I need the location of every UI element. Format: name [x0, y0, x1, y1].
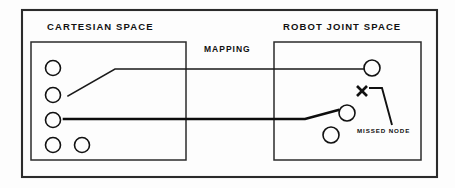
- figure-root: CARTESIAN SPACE ROBOT JOINT SPACE MAPPIN…: [0, 0, 455, 188]
- missed-node-leader-line: [369, 88, 392, 125]
- cartesian-node-3: [46, 113, 61, 128]
- joint-node-2: [339, 105, 355, 121]
- mapping-label: MAPPING: [204, 44, 251, 54]
- cartesian-node-1: [46, 61, 61, 76]
- diagram-canvas: CARTESIAN SPACE ROBOT JOINT SPACE MAPPIN…: [0, 0, 455, 188]
- mapping-line-upper: [68, 69, 364, 96]
- cartesian-space-box: [31, 42, 186, 160]
- missed-node-x-icon: [357, 86, 367, 96]
- joint-node-1: [364, 60, 380, 76]
- cartesian-node-5: [75, 138, 90, 153]
- cartesian-node-2: [46, 88, 61, 103]
- cartesian-node-4: [46, 138, 61, 153]
- robot-joint-space-title: ROBOT JOINT SPACE: [283, 21, 401, 32]
- robot-joint-space-box: [274, 42, 421, 160]
- missed-node-label: MISSED NODE: [357, 127, 410, 134]
- joint-node-3: [323, 127, 339, 143]
- cartesian-space-title: CARTESIAN SPACE: [47, 21, 154, 32]
- mapping-line-lower: [64, 110, 338, 119]
